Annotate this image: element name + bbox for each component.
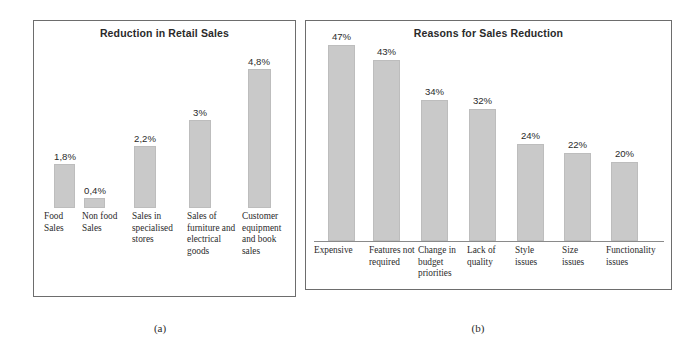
- figure-container: Reduction in Retail Sales 1,8% 0,4% 2,2%…: [0, 0, 696, 356]
- category-label-size-issues: Size issues: [562, 245, 598, 268]
- category-label-lack-of-quality: Lack of quality: [467, 245, 509, 268]
- bar-non-food-sales: [84, 198, 105, 208]
- bar-expensive: [328, 45, 355, 241]
- bar-value-food-sales: 1,8%: [42, 151, 88, 162]
- category-label-functionality-issues: Functionality issues: [606, 245, 668, 268]
- figure-caption-a: (a): [140, 322, 180, 334]
- bar-value-expensive: 47%: [318, 31, 365, 42]
- bar-value-features-not-required: 43%: [363, 46, 410, 57]
- chart-b-baseline: [314, 241, 664, 242]
- bar-value-customer-equipment-book: 4,8%: [236, 56, 282, 67]
- category-label-features-not-required: Features not required: [369, 245, 416, 268]
- bar-value-furniture-electrical: 3%: [177, 107, 223, 118]
- bar-style-issues: [517, 144, 544, 241]
- bar-value-specialised-stores: 2,2%: [122, 133, 168, 144]
- bar-value-non-food-sales: 0,4%: [72, 185, 118, 196]
- bar-functionality-issues: [611, 162, 638, 241]
- category-label-customer-equipment-book: Customer equipment and book sales: [242, 211, 292, 257]
- category-label-expensive: Expensive: [314, 245, 366, 257]
- category-label-specialised-stores: Sales in specialised stores: [132, 211, 184, 246]
- chart-a-plot-area: 1,8% 0,4% 2,2% 3% 4,8% Food Sales Non fo…: [34, 21, 295, 296]
- category-label-change-in-budget-priorities: Change in budget priorities: [418, 245, 465, 280]
- category-label-non-food-sales: Non food Sales: [82, 211, 128, 234]
- bar-change-in-budget-priorities: [421, 100, 448, 241]
- chart-b-plot-area: 47% 43% 34% 32% 24% 22% 20% Expensive Fe…: [306, 21, 671, 289]
- bar-value-size-issues: 22%: [554, 139, 601, 150]
- bar-value-functionality-issues: 20%: [601, 148, 648, 159]
- chart-panel-b: Reasons for Sales Reduction 47% 43% 34% …: [305, 20, 672, 290]
- bar-features-not-required: [373, 60, 400, 241]
- chart-panel-a: Reduction in Retail Sales 1,8% 0,4% 2,2%…: [33, 20, 296, 297]
- bar-specialised-stores: [134, 146, 156, 208]
- bar-value-change-in-budget-priorities: 34%: [411, 86, 458, 97]
- bar-size-issues: [564, 153, 591, 241]
- figure-caption-b: (b): [458, 322, 498, 334]
- bar-value-style-issues: 24%: [507, 130, 554, 141]
- category-label-style-issues: Style issues: [515, 245, 551, 268]
- bar-value-lack-of-quality: 32%: [459, 95, 506, 106]
- bar-customer-equipment-book: [248, 69, 271, 208]
- bar-furniture-electrical: [189, 120, 211, 208]
- category-label-furniture-electrical: Sales of furniture and electrical goods: [187, 211, 237, 257]
- bar-lack-of-quality: [469, 109, 496, 241]
- category-label-food-sales: Food Sales: [44, 211, 80, 234]
